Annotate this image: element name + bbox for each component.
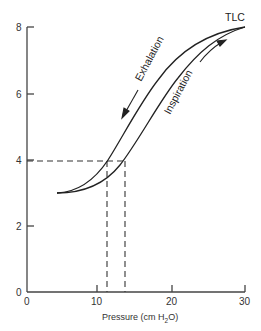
x-axis-title-suffix: O) (168, 312, 178, 322)
x-axis-title: Pressure (cm H2O) (102, 312, 178, 324)
x-axis-title-prefix: Pressure (cm H (102, 312, 165, 322)
compliance-chart: 8 6 4 2 0 0 10 20 30 Pressure (cm H2O) T… (0, 0, 261, 331)
x-tick-label-10: 10 (91, 296, 103, 307)
y-tick-label-0: 0 (16, 287, 22, 298)
tlc-label: TLC (225, 11, 245, 23)
axes (27, 27, 245, 292)
dashed-reference-lines (27, 161, 125, 292)
y-tick-labels: 8 6 4 2 0 (16, 22, 22, 298)
x-tick-label-30: 30 (239, 296, 251, 307)
y-tick-label-8: 8 (16, 22, 22, 33)
x-tick-label-0: 0 (24, 296, 30, 307)
x-tick-label-20: 20 (166, 296, 178, 307)
y-tick-label-2: 2 (16, 221, 22, 232)
y-tick-label-6: 6 (16, 89, 22, 100)
x-tick-labels: 0 10 20 30 (24, 296, 251, 307)
y-tick-label-4: 4 (16, 155, 22, 166)
inspiration-label: Inspiration (161, 67, 194, 116)
